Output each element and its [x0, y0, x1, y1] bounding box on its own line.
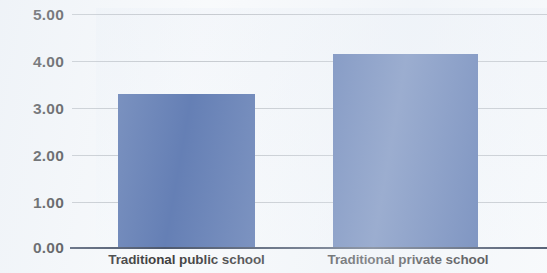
bar-traditional-public-school [118, 94, 255, 247]
y-axis-tick-label-2: 2.00 [0, 147, 64, 165]
x-axis-label-traditional-public-school: Traditional public school [68, 252, 305, 267]
bar-traditional-private-school [333, 54, 478, 247]
y-axis-tick-label-1: 1.00 [0, 194, 64, 212]
y-axis-tick-label-4: 4.00 [0, 53, 64, 71]
bar-chart: 5.00 4.00 3.00 2.00 1.00 0.00 Traditiona… [0, 0, 547, 273]
y-axis-tick-label-5: 5.00 [0, 6, 64, 24]
x-axis-label-traditional-private-school: Traditional private school [288, 252, 528, 267]
x-axis-baseline [70, 247, 547, 249]
y-axis-tick-label-3: 3.00 [0, 100, 64, 118]
y-axis-tick-label-0: 0.00 [0, 239, 64, 257]
gridline-5 [72, 14, 547, 15]
